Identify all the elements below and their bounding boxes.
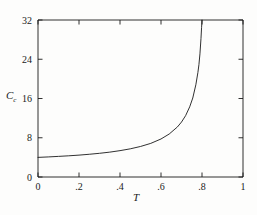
y-axis-ticks: [38, 20, 243, 177]
plot-frame: [38, 20, 243, 177]
y-tick-label: 0: [27, 172, 32, 183]
y-axis-tick-labels: 08162432: [22, 15, 32, 183]
data-series-line: [38, 20, 202, 157]
y-tick-label: 16: [22, 93, 32, 104]
y-axis-label-subscript: c: [13, 96, 16, 104]
y-axis-label: Cc: [6, 89, 16, 104]
x-tick-label: .2: [75, 181, 83, 192]
y-tick-label: 8: [27, 132, 32, 143]
x-axis-label: T: [133, 191, 139, 203]
y-tick-label: 32: [22, 15, 32, 26]
chart-canvas: 0.2.4.6.81 08162432: [0, 0, 257, 215]
x-axis-ticks: [38, 20, 243, 177]
y-tick-label: 24: [22, 54, 32, 65]
x-tick-label: .4: [116, 181, 124, 192]
figure-container: 0.2.4.6.81 08162432 Cc T: [0, 0, 257, 215]
series-path: [38, 20, 202, 157]
x-tick-label: 1: [241, 181, 246, 192]
x-tick-label: .8: [198, 181, 206, 192]
x-axis-tick-labels: 0.2.4.6.81: [36, 181, 246, 192]
x-tick-label: 0: [36, 181, 41, 192]
x-tick-label: .6: [157, 181, 165, 192]
